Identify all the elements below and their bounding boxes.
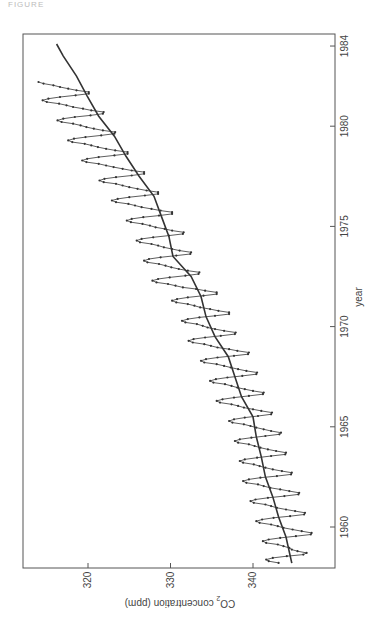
year-tick-label: 1975 <box>339 215 350 238</box>
data-point <box>151 280 153 282</box>
data-point <box>187 303 189 305</box>
data-point <box>157 245 159 247</box>
data-point <box>98 163 100 165</box>
data-point <box>164 265 166 267</box>
data-point <box>56 119 58 121</box>
data-point <box>72 123 74 125</box>
data-point <box>276 507 278 509</box>
data-point <box>285 508 287 510</box>
data-point <box>234 440 236 442</box>
data-point <box>295 535 297 537</box>
data-point <box>103 111 105 113</box>
data-point <box>279 537 281 539</box>
data-point <box>209 308 211 310</box>
data-point <box>184 275 186 277</box>
data-point <box>146 261 148 263</box>
data-point <box>127 151 129 153</box>
data-point <box>115 183 117 185</box>
data-point <box>205 358 207 360</box>
data-point <box>90 109 92 111</box>
data-point <box>220 335 222 337</box>
data-point <box>158 263 160 265</box>
data-point <box>202 325 204 327</box>
data-point <box>257 415 259 417</box>
data-point <box>89 114 91 116</box>
data-point <box>100 134 102 136</box>
data-point <box>235 331 237 333</box>
data-point <box>283 495 285 497</box>
data-point <box>200 360 202 362</box>
data-point <box>144 194 146 196</box>
data-point <box>259 465 261 467</box>
data-point <box>46 101 48 103</box>
data-point <box>237 368 239 370</box>
data-point <box>111 199 113 201</box>
data-point <box>233 355 235 357</box>
data-point <box>98 179 100 181</box>
data-point <box>105 148 107 150</box>
data-point <box>242 462 244 464</box>
data-point <box>52 84 54 86</box>
data-point <box>239 438 241 440</box>
data-point <box>241 375 243 377</box>
data-point <box>88 91 90 93</box>
data-point <box>264 435 266 437</box>
axis-ticks: 340330320196019651970197519801984 <box>82 34 350 588</box>
data-point <box>62 118 64 120</box>
data-point <box>192 341 194 343</box>
data-point <box>150 243 152 245</box>
data-point <box>248 351 250 353</box>
data-point <box>65 104 67 106</box>
data-point <box>184 321 186 323</box>
data-point <box>74 116 76 118</box>
data-point <box>170 266 172 268</box>
data-point <box>226 376 228 378</box>
data-point <box>97 146 99 148</box>
trend-line <box>57 44 292 563</box>
data-point <box>143 171 145 173</box>
data-point <box>216 346 218 348</box>
data-point <box>193 305 195 307</box>
data-point <box>237 405 239 407</box>
data-point <box>278 562 280 564</box>
data-point <box>244 458 246 460</box>
data-point <box>214 315 216 317</box>
data-point <box>216 400 218 402</box>
co2-chart: 340330320196019651970197519801984 CO2 co… <box>0 0 386 641</box>
data-point <box>282 545 284 547</box>
data-point <box>203 361 205 363</box>
data-point <box>239 460 241 462</box>
data-point <box>249 425 251 427</box>
data-point <box>243 423 245 425</box>
data-point <box>163 246 165 248</box>
data-point <box>127 203 129 205</box>
data-point <box>288 547 290 549</box>
data-point <box>193 338 195 340</box>
data-point <box>199 306 201 308</box>
year-axis-title: year <box>353 287 364 307</box>
data-point <box>248 478 250 480</box>
data-point <box>81 159 83 161</box>
data-point <box>270 430 272 432</box>
data-point <box>187 318 189 320</box>
data-point <box>122 168 124 170</box>
data-point <box>136 240 138 242</box>
data-point <box>122 184 124 186</box>
data-point <box>289 515 291 517</box>
data-point <box>265 542 267 544</box>
data-point <box>233 397 235 399</box>
data-point <box>252 408 254 410</box>
co2-tick-label: 320 <box>82 571 93 588</box>
data-point <box>292 528 294 530</box>
data-point <box>259 477 261 479</box>
data-point <box>263 485 265 487</box>
data-point <box>149 225 151 227</box>
data-point <box>130 221 132 223</box>
data-point <box>105 164 107 166</box>
data-point <box>277 543 279 545</box>
data-point <box>171 248 173 250</box>
data-point <box>216 291 218 293</box>
data-point <box>286 555 288 557</box>
data-point <box>298 492 300 494</box>
data-point <box>216 363 218 365</box>
